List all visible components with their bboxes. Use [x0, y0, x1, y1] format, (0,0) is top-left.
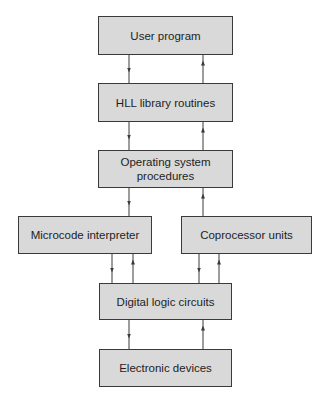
node-label-line-2: procedures	[137, 169, 195, 183]
node-label: Digital logic circuits	[117, 295, 215, 309]
connector-arrows	[0, 0, 330, 405]
node-label: Coprocessor units	[200, 228, 293, 242]
node-label-line-1: Operating system	[120, 155, 210, 169]
node-hll-library-routines: HLL library routines	[98, 83, 233, 122]
node-electronic-devices: Electronic devices	[99, 349, 232, 387]
node-label: HLL library routines	[116, 96, 215, 110]
node-operating-system-procedures: Operating system procedures	[98, 150, 233, 188]
node-label: Microcode interpreter	[31, 228, 140, 242]
node-label: User program	[130, 29, 200, 43]
node-coprocessor-units: Coprocessor units	[181, 216, 312, 254]
node-user-program: User program	[98, 16, 233, 55]
node-microcode-interpreter: Microcode interpreter	[18, 216, 152, 254]
node-label: Electronic devices	[119, 361, 212, 375]
node-digital-logic-circuits: Digital logic circuits	[99, 283, 232, 320]
